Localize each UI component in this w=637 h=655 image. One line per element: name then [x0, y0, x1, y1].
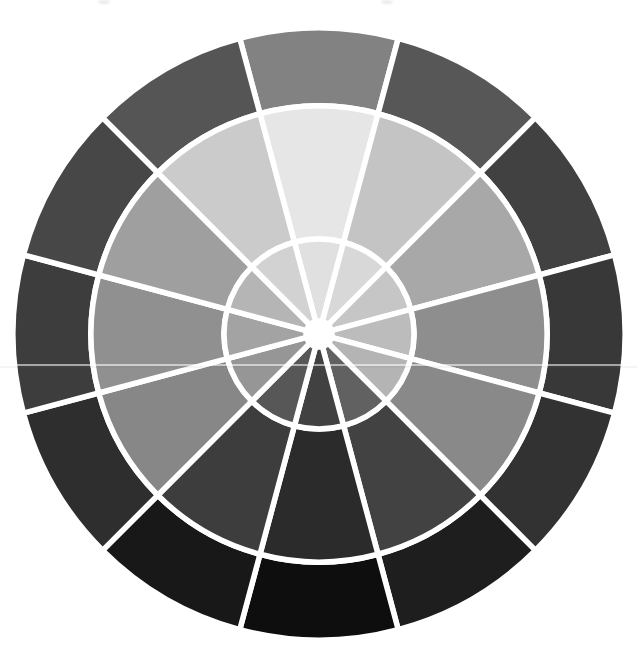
wheel-segment-9-oclock-outer [13, 255, 99, 413]
wheel-segment-6-oclock-outer [240, 554, 398, 640]
page-smudge-artifact [381, 0, 393, 4]
page-smudge-artifact [98, 0, 110, 4]
wheel-segment-3-oclock-outer [539, 255, 625, 413]
scanned-page [0, 0, 637, 655]
wheel-segment-12-oclock-outer [240, 28, 398, 114]
color-value-wheel [0, 0, 637, 655]
wheel-hub [304, 319, 334, 349]
